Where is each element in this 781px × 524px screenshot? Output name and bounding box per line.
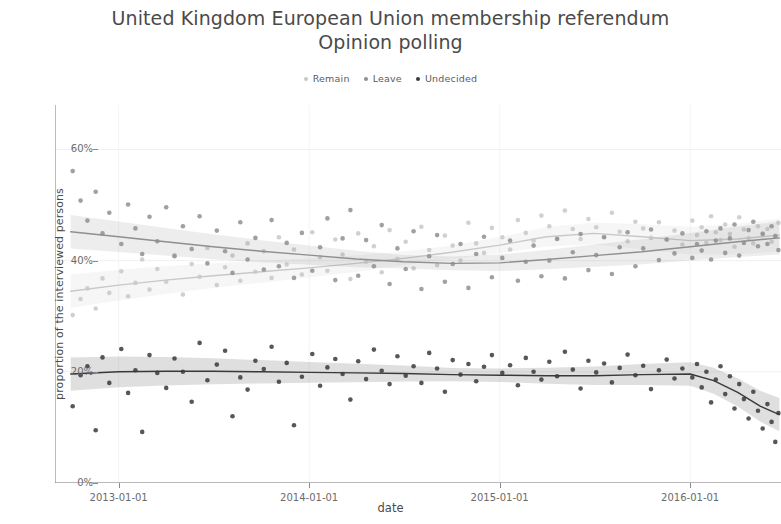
data-point	[403, 239, 408, 244]
data-point	[458, 242, 463, 247]
data-point	[93, 306, 98, 311]
y-tick-mark	[93, 261, 98, 262]
data-point	[93, 428, 98, 433]
data-point	[450, 358, 455, 363]
data-point	[737, 253, 742, 258]
data-point	[269, 345, 274, 350]
data-point	[356, 273, 361, 278]
data-point	[356, 231, 361, 236]
data-point	[516, 218, 521, 223]
data-point	[680, 231, 685, 236]
data-point	[269, 276, 274, 281]
data-point	[524, 356, 529, 361]
data-point	[245, 257, 250, 262]
data-point	[119, 347, 124, 352]
data-point	[617, 245, 622, 250]
data-point	[333, 357, 338, 362]
data-point	[100, 355, 105, 360]
data-point	[737, 382, 742, 387]
data-point	[325, 216, 330, 221]
data-point	[387, 382, 392, 387]
legend-item-leave[interactable]: Leave	[364, 73, 402, 84]
x-axis-label: date	[0, 501, 781, 515]
x-tick-mark	[690, 483, 691, 488]
data-point	[126, 294, 131, 299]
data-point	[443, 390, 448, 395]
data-point	[215, 283, 220, 288]
legend-item-undecided[interactable]: Undecided	[416, 73, 477, 84]
data-point	[709, 214, 714, 219]
data-point	[723, 392, 728, 397]
data-point	[751, 219, 756, 224]
data-point	[776, 248, 781, 253]
confidence-band	[71, 356, 780, 431]
data-point	[443, 233, 448, 238]
data-point	[300, 272, 305, 277]
data-point	[230, 414, 235, 419]
data-point	[672, 228, 677, 233]
data-point	[395, 246, 400, 251]
data-point	[699, 385, 704, 390]
data-point	[547, 360, 552, 365]
data-point	[387, 282, 392, 287]
data-point	[253, 236, 258, 241]
data-point	[372, 264, 377, 269]
data-point	[482, 234, 487, 239]
y-tick-mark	[93, 149, 98, 150]
data-point	[107, 381, 112, 386]
chart-title-line-1: United Kingdom European Union membership…	[0, 6, 781, 30]
data-point	[230, 271, 235, 276]
data-point	[756, 408, 761, 413]
data-point	[325, 268, 330, 273]
data-point	[147, 353, 152, 358]
data-point	[348, 208, 353, 213]
data-point	[427, 351, 432, 356]
data-point	[769, 224, 774, 229]
data-point	[524, 231, 529, 236]
data-point	[555, 237, 560, 242]
data-point	[223, 348, 228, 353]
data-point	[140, 257, 145, 262]
data-point	[450, 243, 455, 248]
data-point	[181, 224, 186, 229]
data-point	[181, 292, 186, 297]
data-point	[625, 230, 630, 235]
data-point	[641, 226, 646, 231]
data-point	[262, 367, 267, 372]
data-point	[403, 267, 408, 272]
data-point	[657, 258, 662, 263]
data-point	[539, 377, 544, 382]
legend-item-remain[interactable]: Remain	[304, 73, 350, 84]
data-point	[100, 276, 105, 281]
data-point	[300, 231, 305, 236]
data-point	[773, 440, 778, 445]
data-point	[333, 237, 338, 242]
data-point	[728, 236, 733, 241]
data-point	[379, 368, 384, 373]
data-point	[419, 287, 424, 292]
data-point	[664, 357, 669, 362]
data-point	[617, 229, 622, 234]
data-point	[223, 265, 228, 270]
data-point	[704, 229, 709, 234]
data-point	[147, 214, 152, 219]
data-point	[657, 368, 662, 373]
data-point	[348, 397, 353, 402]
data-point	[348, 277, 353, 282]
data-point	[610, 380, 615, 385]
data-point	[571, 367, 576, 372]
data-point	[155, 267, 160, 272]
data-point	[649, 387, 654, 392]
data-point	[427, 254, 432, 259]
data-point	[633, 264, 638, 269]
data-point	[474, 241, 479, 246]
data-point	[539, 274, 544, 279]
data-point	[531, 243, 536, 248]
legend-label: Remain	[313, 73, 350, 84]
data-point	[695, 362, 700, 367]
data-point	[372, 244, 377, 249]
data-point	[107, 291, 112, 296]
data-point	[516, 383, 521, 388]
data-point	[482, 251, 487, 256]
data-point	[466, 362, 471, 367]
